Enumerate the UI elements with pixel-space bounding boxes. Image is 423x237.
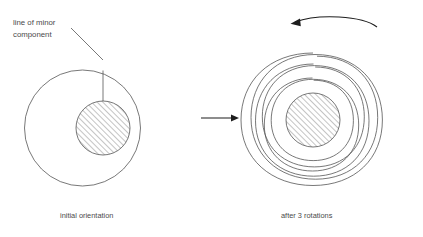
rotation-arrow-arc	[295, 17, 377, 27]
annotation-label-group: line of minor component	[13, 18, 56, 39]
transition-arrow	[201, 115, 239, 122]
annotation-label-line-2: component	[13, 30, 52, 39]
right-inner-hatched-circle	[286, 93, 340, 147]
right-caption: after 3 rotations	[281, 211, 333, 220]
left-panel-group	[25, 28, 141, 186]
rotation-diagram-canvas: line of minor component initial orientat…	[0, 0, 423, 237]
right-panel-group	[241, 53, 382, 186]
rotation-arrow	[291, 17, 378, 27]
annotation-label-line-1: line of minor	[13, 18, 56, 27]
left-inner-hatched-circle	[76, 101, 130, 155]
rotation-arrow-head	[291, 19, 301, 27]
left-caption: initial orientation	[60, 211, 113, 220]
transition-arrow-head	[231, 115, 239, 122]
diagram-root: line of minor component initial orientat…	[0, 0, 423, 237]
annotation-leader-line	[71, 28, 103, 60]
